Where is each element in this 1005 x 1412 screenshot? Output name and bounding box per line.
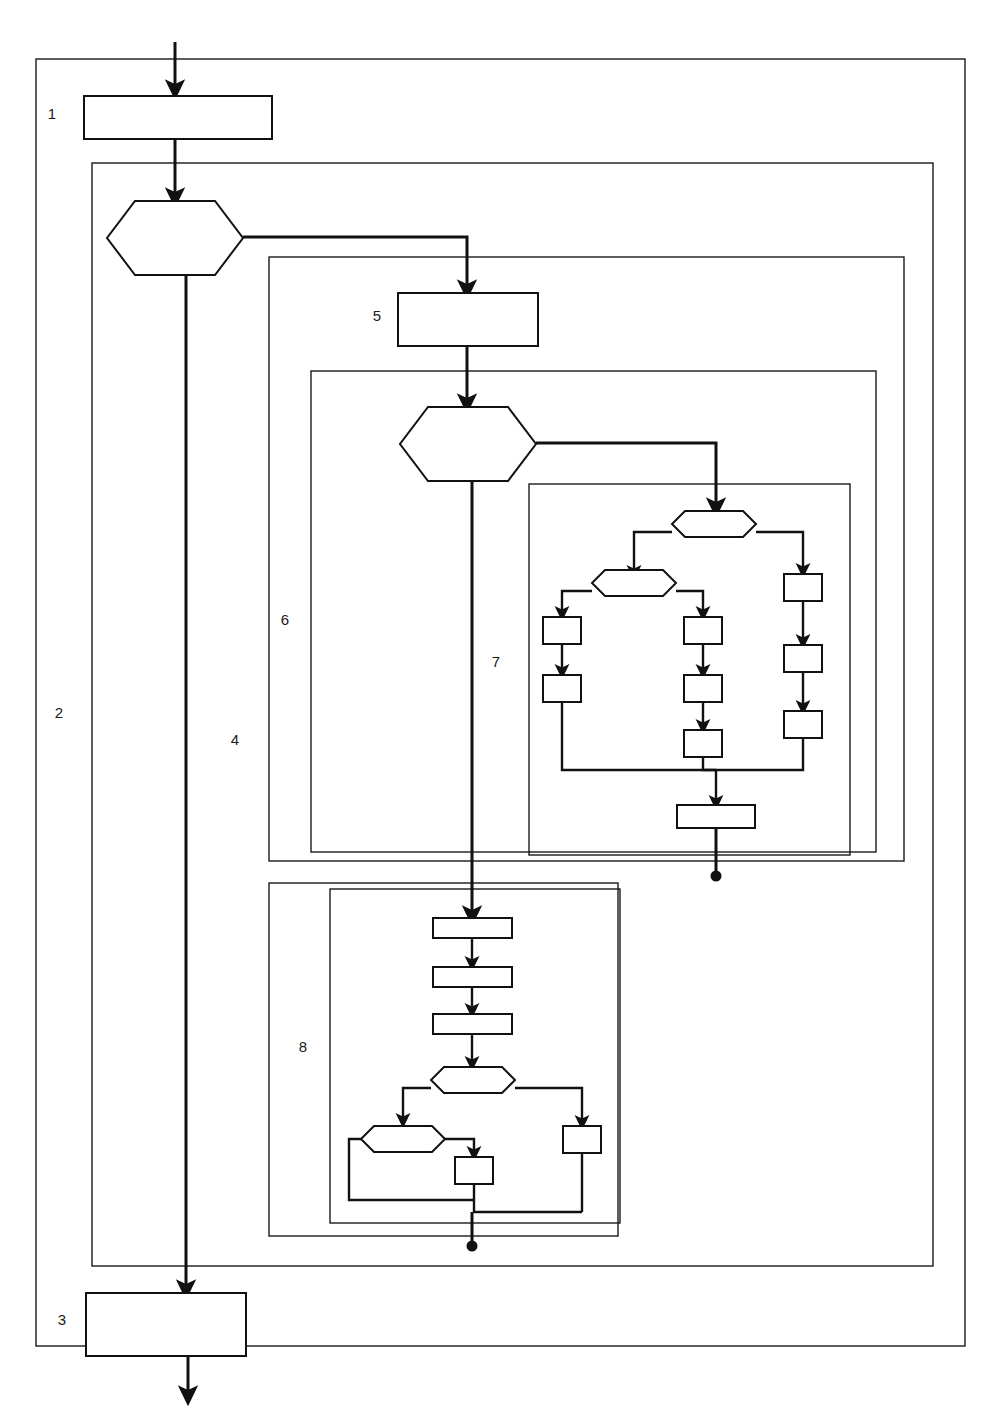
decision-hex-7b[interactable]	[592, 570, 676, 596]
box-7-mid-3[interactable]	[684, 730, 722, 757]
box-7-merge[interactable]	[677, 805, 755, 828]
decision-hex-2[interactable]	[400, 407, 536, 481]
terminator-dot-region-8	[467, 1241, 478, 1252]
connector-hex7a-left	[634, 532, 672, 573]
box-7-right-2[interactable]	[784, 645, 822, 672]
connector-hex1-true-to-box5	[243, 237, 467, 290]
region-label-3: 3	[58, 1311, 66, 1328]
box-7-mid-2[interactable]	[684, 675, 722, 702]
connector-7-right-to-rail	[716, 738, 803, 770]
region-label-1: 1	[48, 105, 56, 122]
box-8-step-2[interactable]	[433, 967, 512, 987]
region-label-7: 7	[492, 653, 500, 670]
connector-hex8a-right	[515, 1088, 582, 1123]
terminator-dot-region-7	[711, 871, 722, 882]
process-box-3[interactable]	[86, 1293, 246, 1356]
box-8-inner[interactable]	[455, 1157, 493, 1184]
connector-hex7b-right	[676, 591, 703, 614]
box-7-mid-1[interactable]	[684, 617, 722, 644]
flowchart-canvas: 1 2 3 4 5 6 7 8	[0, 0, 1005, 1412]
box-7-right-1[interactable]	[784, 574, 822, 601]
box-7-left-1[interactable]	[543, 617, 581, 644]
box-7-right-3[interactable]	[784, 711, 822, 738]
box-8-right[interactable]	[563, 1126, 601, 1153]
decision-hex-8b[interactable]	[361, 1126, 445, 1152]
region-label-6: 6	[281, 611, 289, 628]
connector-hex8a-left	[403, 1088, 431, 1121]
process-box-5[interactable]	[398, 293, 538, 346]
connector-hex7a-right	[756, 532, 803, 571]
connector-7-mid-to-rail	[703, 757, 716, 770]
flowchart-diagram: 1 2 3 4 5 6 7 8	[0, 0, 1005, 1412]
region-label-4: 4	[231, 731, 239, 748]
decision-hex-1[interactable]	[107, 201, 243, 275]
process-box-1[interactable]	[84, 96, 272, 139]
connector-8-inner-box-to-rail	[474, 1184, 582, 1212]
box-8-step-3[interactable]	[433, 1014, 512, 1034]
region-label-2: 2	[55, 704, 63, 721]
box-8-step-1[interactable]	[433, 918, 512, 938]
connector-hex2-true-to-region7	[536, 443, 716, 508]
connector-hex7b-left	[562, 591, 592, 614]
region-label-8: 8	[299, 1038, 307, 1055]
region-label-5: 5	[373, 307, 381, 324]
node-shapes	[84, 96, 822, 1356]
main-flow-connectors	[175, 42, 716, 1396]
box-7-left-2[interactable]	[543, 675, 581, 702]
decision-hex-7a[interactable]	[672, 511, 756, 537]
decision-hex-8a[interactable]	[431, 1067, 515, 1093]
connector-hex8b-right	[445, 1139, 474, 1154]
